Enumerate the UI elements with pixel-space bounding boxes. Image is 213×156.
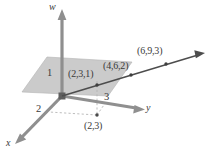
- w-axis-tick-label-1: 1: [47, 68, 52, 79]
- marker-point-4-6-2: [129, 73, 132, 76]
- marker-projection-2-3: [95, 113, 98, 116]
- point-label-projection-2-3: (2,3): [84, 121, 102, 131]
- coordinate-diagram-figure: w y x 1 2 3 (2,3,1) (4,6,2) (6,9,3) (2,3…: [0, 0, 213, 156]
- y-axis-label: y: [146, 103, 150, 113]
- x-axis-tick-label-2: 2: [36, 104, 41, 115]
- marker-point-6-9-3: [164, 62, 167, 65]
- y-axis-tick-label-3: 3: [104, 92, 109, 103]
- point-label-4-6-2: (4,6,2): [103, 61, 128, 71]
- point-label-2-3-1: (2,3,1): [68, 69, 93, 79]
- diagram-canvas: [0, 0, 213, 156]
- x-axis-label: x: [6, 138, 10, 148]
- marker-point-2-3-1: [95, 83, 98, 86]
- w-axis-label: w: [49, 2, 55, 12]
- point-label-6-9-3: (6,9,3): [137, 46, 162, 56]
